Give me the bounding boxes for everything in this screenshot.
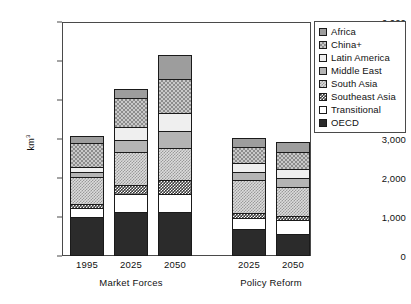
y-axis-tick-mark xyxy=(57,139,62,140)
bar-segment-transitional[interactable] xyxy=(232,218,266,229)
x-axis-group-label: Market Forces xyxy=(66,277,196,288)
bar-segment-latin[interactable] xyxy=(158,113,192,131)
bar-stack[interactable] xyxy=(232,138,266,256)
legend-swatch-mideast xyxy=(319,67,327,75)
bar-stack[interactable] xyxy=(158,55,192,256)
bar-segment-transitional[interactable] xyxy=(114,194,148,212)
y-axis-tick-mark xyxy=(57,61,62,62)
bar-segment-oecd[interactable] xyxy=(70,217,104,256)
legend-item-label: Transitional xyxy=(331,104,381,115)
bar-segment-southasia[interactable] xyxy=(232,180,266,213)
bar-segment-africa[interactable] xyxy=(232,138,266,147)
legend-item-label: Africa xyxy=(331,26,356,37)
bar-segment-mideast[interactable] xyxy=(276,178,310,188)
legend-item[interactable]: Transitional xyxy=(319,103,402,116)
legend-item[interactable]: Africa xyxy=(319,25,402,38)
bar-segment-africa[interactable] xyxy=(114,89,148,98)
bar-stack[interactable] xyxy=(114,89,148,256)
bar-segment-southasia[interactable] xyxy=(114,152,148,185)
bar-segment-oecd[interactable] xyxy=(276,234,310,256)
legend-swatch-southasia xyxy=(319,80,327,88)
bar-segment-mideast[interactable] xyxy=(114,140,148,152)
legend-item-label: Southeast Asia xyxy=(331,91,396,102)
bar-segment-china[interactable] xyxy=(158,79,192,113)
x-axis-tick-label: 1995 xyxy=(64,259,110,270)
bar-segment-china[interactable] xyxy=(232,147,266,163)
y-axis-title-text: km xyxy=(26,138,36,150)
bar-segment-oecd[interactable] xyxy=(158,212,192,256)
legend-swatch-china xyxy=(319,41,327,49)
legend-item[interactable]: Latin America xyxy=(319,51,402,64)
legend-swatch-oecd xyxy=(319,119,327,127)
bar-segment-transitional[interactable] xyxy=(276,220,310,234)
legend-swatch-africa xyxy=(319,28,327,36)
y-axis-tick-label: 0 xyxy=(353,251,411,262)
bar-segment-oecd[interactable] xyxy=(114,212,148,256)
y-axis-tick-label: 3,000 xyxy=(353,134,411,145)
x-axis-tick-label: 2025 xyxy=(226,259,272,270)
y-axis-tick-mark xyxy=(57,217,62,218)
bar-segment-transitional[interactable] xyxy=(70,208,104,217)
bar-segment-china[interactable] xyxy=(70,143,104,167)
bar-segment-southasia[interactable] xyxy=(158,148,192,180)
bar-segment-southasia[interactable] xyxy=(70,177,104,204)
bar-segment-mideast[interactable] xyxy=(232,172,266,180)
bar-segment-southasia[interactable] xyxy=(276,187,310,216)
y-axis-tick-mark xyxy=(57,178,62,179)
legend-item-label: South Asia xyxy=(331,78,377,89)
y-axis-tick-mark xyxy=(57,256,62,257)
legend-item-label: China+ xyxy=(331,39,362,50)
legend-item-label: OECD xyxy=(331,117,359,128)
x-axis-tick-label: 2050 xyxy=(270,259,316,270)
legend-item[interactable]: OECD xyxy=(319,116,402,129)
legend-item[interactable]: China+ xyxy=(319,38,402,51)
bar-stack[interactable] xyxy=(70,136,104,256)
bar-segment-seasia[interactable] xyxy=(158,180,192,194)
legend-swatch-transitional xyxy=(319,106,327,114)
y-axis-tick-label: 1,000 xyxy=(353,212,411,223)
y-axis-tick-label: 2,000 xyxy=(353,173,411,184)
legend-swatch-latin xyxy=(319,54,327,62)
bar-segment-china[interactable] xyxy=(276,152,310,169)
bar-segment-latin[interactable] xyxy=(232,163,266,172)
bar-segment-africa[interactable] xyxy=(158,55,192,79)
x-axis-tick-label: 2025 xyxy=(108,259,154,270)
bar-segment-latin[interactable] xyxy=(276,169,310,178)
legend-item[interactable]: South Asia xyxy=(319,77,402,90)
x-axis-group-label: Policy Reform xyxy=(206,277,336,288)
legend: AfricaChina+Latin AmericaMiddle EastSout… xyxy=(314,21,406,133)
x-axis-tick-label: 2050 xyxy=(152,259,198,270)
stacked-bar-chart: km3 6,0005,0004,0003,0002,0001,0000 1995… xyxy=(0,0,411,304)
bar-segment-china[interactable] xyxy=(114,98,148,127)
bar-segment-oecd[interactable] xyxy=(232,229,266,256)
bar-segment-transitional[interactable] xyxy=(158,194,192,212)
y-axis-tick-mark xyxy=(57,22,62,23)
bar-segment-africa[interactable] xyxy=(70,136,104,143)
bar-segment-africa[interactable] xyxy=(276,142,310,151)
legend-item[interactable]: Middle East xyxy=(319,64,402,77)
legend-item-label: Latin America xyxy=(331,52,390,63)
legend-item-label: Middle East xyxy=(331,65,382,76)
bar-segment-mideast[interactable] xyxy=(158,131,192,148)
y-axis-title: km3 xyxy=(25,135,36,151)
y-axis-tick-mark xyxy=(57,100,62,101)
bar-segment-seasia[interactable] xyxy=(114,185,148,194)
legend-item[interactable]: Southeast Asia xyxy=(319,90,402,103)
y-axis-title-exponent: 3 xyxy=(25,135,31,139)
bar-stack[interactable] xyxy=(276,142,310,256)
bar-segment-latin[interactable] xyxy=(114,127,148,140)
legend-swatch-seasia xyxy=(319,93,327,101)
